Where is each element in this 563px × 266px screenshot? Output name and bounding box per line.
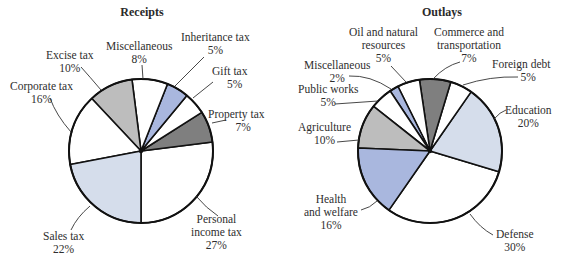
leader-oil xyxy=(391,66,406,82)
label-percent: 8% xyxy=(106,53,172,66)
label-line: Commerce and xyxy=(434,26,504,39)
label-line: Agriculture xyxy=(298,121,351,134)
label-health-welfare: Health and welfare 16% xyxy=(304,193,358,232)
label-line: Oil and natural xyxy=(349,26,418,39)
label-defense: Defense 30% xyxy=(496,228,534,254)
label-inheritance-tax: Inheritance tax 5% xyxy=(181,31,250,57)
pie-chart-figure: Receipts Personal income tax 27% Propert… xyxy=(0,0,563,266)
pie-center-dot xyxy=(139,149,143,153)
receipts-title: Receipts xyxy=(82,5,202,20)
label-personal-income-tax: Personal income tax 27% xyxy=(191,213,242,252)
label-line: Miscellaneous xyxy=(304,59,370,72)
label-line: Sales tax xyxy=(43,230,84,243)
label-percent: 16% xyxy=(304,219,358,232)
label-line: Inheritance tax xyxy=(181,31,250,44)
leader-inheritance xyxy=(175,57,204,86)
label-line: Gift tax xyxy=(212,65,247,78)
pie-center-dot xyxy=(428,149,432,153)
label-line: Public works xyxy=(298,83,358,96)
label-line: Health xyxy=(304,193,358,206)
label-percent: 7% xyxy=(208,121,265,134)
outlays-pie xyxy=(358,79,502,223)
pie-slice-personal-income-tax xyxy=(141,142,213,223)
label-percent: 5% xyxy=(492,71,550,84)
label-percent: 10% xyxy=(298,134,351,147)
label-line: resources xyxy=(349,39,418,52)
label-line: Personal xyxy=(191,213,242,226)
label-percent: 22% xyxy=(43,243,84,256)
label-line: Education xyxy=(505,104,552,117)
label-property-tax: Property tax 7% xyxy=(208,108,265,134)
label-line: Excise tax xyxy=(46,49,94,62)
label-miscellaneous-outlays: Miscellaneous 2% xyxy=(304,59,370,85)
label-percent: 5% xyxy=(212,78,247,91)
label-line: and welfare xyxy=(304,206,358,219)
leader-gift xyxy=(193,82,213,98)
label-corporate-tax: Corporate tax 16% xyxy=(10,80,73,106)
label-percent: 30% xyxy=(496,241,534,254)
pie-slice-sales-tax xyxy=(70,151,141,223)
label-miscellaneous-receipts: Miscellaneous 8% xyxy=(106,40,172,66)
label-line: Corporate tax xyxy=(10,80,73,93)
label-line: transportation xyxy=(434,39,504,52)
label-line: income tax xyxy=(191,226,242,239)
leader-defense xyxy=(470,214,493,235)
label-line: Miscellaneous xyxy=(106,40,172,53)
label-agriculture: Agriculture 10% xyxy=(298,121,351,147)
leader-sales xyxy=(71,206,90,230)
label-sales-tax: Sales tax 22% xyxy=(43,230,84,256)
label-commerce-transportation: Commerce and transportation 7% xyxy=(434,26,504,65)
label-percent: 20% xyxy=(505,117,552,130)
label-line: Defense xyxy=(496,228,534,241)
label-percent: 7% xyxy=(434,52,504,65)
leader-health xyxy=(361,201,377,210)
label-percent: 5% xyxy=(298,96,358,109)
label-gift-tax: Gift tax 5% xyxy=(212,65,247,91)
label-excise-tax: Excise tax 10% xyxy=(46,49,94,75)
leader-misc xyxy=(142,65,143,79)
outlays-title: Outlays xyxy=(382,5,502,20)
label-percent: 27% xyxy=(191,239,242,252)
label-percent: 10% xyxy=(46,62,94,75)
label-public-works: Public works 5% xyxy=(298,83,358,109)
label-education: Education 20% xyxy=(505,104,552,130)
label-percent: 5% xyxy=(181,44,250,57)
label-percent: 16% xyxy=(10,93,73,106)
receipts-pie xyxy=(69,79,213,223)
label-line: Property tax xyxy=(208,108,265,121)
